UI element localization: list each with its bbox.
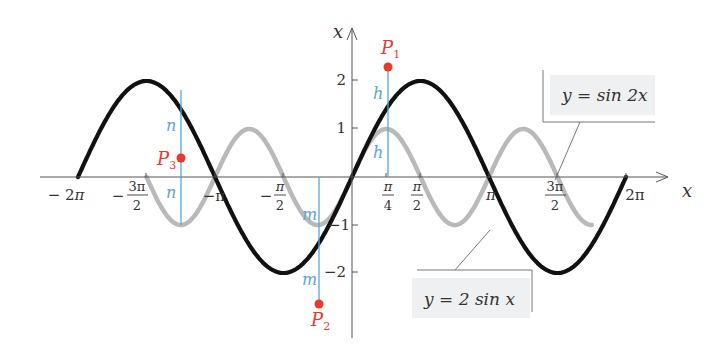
point-p2	[315, 300, 324, 309]
x-tick-neg-pi2-den: 2	[276, 198, 284, 213]
x-tick-neg-3pi2-num: 3π	[129, 179, 146, 194]
x-tick-neg-pi2-sign: −	[260, 187, 273, 205]
x-axis-label: x	[682, 180, 692, 201]
x-tick-3pi2-num: 3π	[547, 179, 564, 194]
label-p3: P3	[156, 148, 176, 172]
legend-sin2x: y = sin 2x	[561, 85, 648, 105]
x-tick-neg-3pi2-sign: −	[112, 187, 125, 205]
y-tick-neg1: −1	[328, 216, 350, 234]
label-p1: P1	[380, 37, 400, 61]
x-tick-neg-pi: −π	[203, 187, 226, 205]
x-tick-neg-pi2-num: π	[275, 179, 285, 194]
label-n-upper: n	[166, 116, 176, 135]
y-tick-neg2: −2	[324, 263, 346, 281]
point-p3	[177, 154, 186, 163]
x-tick-pi2-num: π	[412, 179, 422, 194]
label-m-lower: m	[302, 270, 317, 289]
legend-2sinx: y = 2 sin x	[423, 289, 515, 309]
label-h-lower: h	[373, 143, 383, 162]
y-axis-label: x	[333, 21, 343, 42]
y-tick-1: 1	[336, 119, 346, 137]
label-n-lower: n	[166, 183, 176, 202]
point-p1	[384, 63, 393, 72]
x-tick-pi4-num: π	[383, 179, 393, 194]
x-tick-pi: π	[485, 186, 497, 204]
x-tick-2pi: 2π	[625, 186, 645, 204]
x-tick-pi2-den: 2	[413, 198, 421, 213]
y-tick-2: 2	[336, 71, 346, 89]
x-tick-neg-3pi2-den: 2	[133, 198, 141, 213]
x-tick-neg-2pi: − 2π	[48, 186, 86, 204]
x-tick-pi4-den: 4	[384, 198, 392, 213]
label-m-upper: m	[302, 205, 317, 224]
sine-comparison-figure: x x 2 1 −1 −2 − 2π − 3π 2 −π − π 2 π 4 π…	[0, 0, 712, 356]
label-p2: P2	[310, 309, 330, 333]
x-tick-3pi2-den: 2	[551, 198, 559, 213]
label-h-upper: h	[373, 84, 383, 103]
